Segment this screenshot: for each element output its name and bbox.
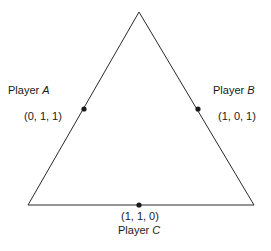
player-a-text: Player: [8, 84, 39, 96]
player-a-coords: (0, 1, 1): [24, 110, 62, 122]
point-b: [195, 106, 200, 111]
player-b-label: Player B: [213, 84, 255, 96]
player-b-text: Player: [213, 84, 244, 96]
player-c-coords: (1, 1, 0): [121, 210, 159, 222]
point-a: [81, 106, 86, 111]
triangle: [28, 12, 254, 205]
player-c-text: Player: [118, 224, 149, 236]
player-c-label: Player C: [118, 224, 160, 236]
point-c: [136, 202, 141, 207]
player-b-letter: B: [247, 84, 254, 96]
player-b-coords: (1, 0, 1): [218, 110, 256, 122]
player-c-letter: C: [152, 224, 160, 236]
player-a-letter: A: [42, 84, 49, 96]
player-a-label: Player A: [8, 84, 50, 96]
